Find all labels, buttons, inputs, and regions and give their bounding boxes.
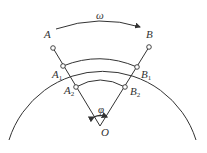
phi-angle-arc (94, 116, 107, 118)
label-A: A (44, 29, 51, 40)
point-A (51, 46, 56, 51)
point-A1 (61, 64, 66, 69)
point-A2 (74, 85, 79, 90)
rotation-diagram: ω A B A1 B1 A2 B2 φ O (0, 0, 207, 153)
point-B1 (135, 65, 140, 70)
label-omega: ω (96, 10, 104, 21)
label-A2: A2 (64, 85, 74, 98)
omega-arrow (56, 21, 140, 29)
point-B (147, 45, 152, 50)
label-A1: A1 (52, 69, 62, 82)
label-B1: B1 (141, 69, 151, 82)
point-B2 (123, 85, 128, 90)
arc-A1B1 (63, 59, 137, 67)
arc-A2B2 (76, 80, 125, 87)
label-phi: φ (98, 104, 104, 115)
label-B2: B2 (130, 86, 140, 99)
label-O: O (101, 127, 109, 138)
label-B: B (146, 29, 153, 40)
